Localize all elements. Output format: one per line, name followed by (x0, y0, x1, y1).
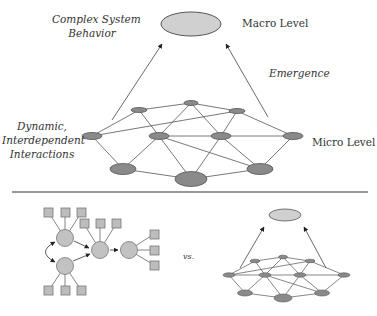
emergence-arrow-right (226, 44, 268, 117)
small-emergence-diagram (223, 209, 350, 302)
emergence-label: Emergence (269, 67, 330, 79)
label-line: Behavior (52, 26, 132, 40)
dynamic-interactions-label: Dynamic, Interdependent Interactions (2, 119, 82, 161)
label-line: Dynamic, (2, 119, 82, 133)
hierarchical-diagram (44, 208, 159, 295)
label-line: Interdependent (2, 133, 82, 147)
macro-level-label: Macro Level (242, 17, 308, 29)
micro-network-nodes (82, 101, 303, 187)
macro-level-ellipse (161, 12, 221, 36)
versus-label: vs. (183, 252, 194, 261)
label-line: Complex System (52, 12, 132, 26)
label-line: Interactions (2, 147, 82, 161)
micro-level-label: Micro Level (312, 136, 375, 148)
complex-system-behavior-label: Complex System Behavior (52, 12, 132, 40)
